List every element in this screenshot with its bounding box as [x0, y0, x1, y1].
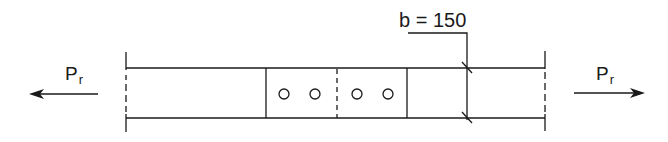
bolt-hole [310, 89, 320, 99]
right-force-subscript: r [610, 72, 614, 87]
bolt-hole [279, 89, 289, 99]
bolt-hole [352, 89, 362, 99]
right-force-label: Pr [596, 64, 614, 86]
bolt-hole [383, 89, 393, 99]
splice-diagram [0, 0, 668, 142]
left-force-label: Pr [65, 64, 83, 86]
dimension-label: b = 150 [399, 10, 466, 30]
left-force-symbol: P [65, 63, 78, 84]
left-force-subscript: r [79, 72, 83, 87]
dimension-leader [408, 33, 467, 120]
right-force-symbol: P [596, 63, 609, 84]
